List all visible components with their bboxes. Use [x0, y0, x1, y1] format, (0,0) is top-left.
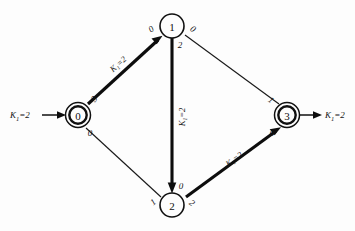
edge-0-2	[86, 128, 161, 197]
symbol-node2-above: 0	[179, 181, 184, 191]
arrowhead-input	[57, 111, 66, 119]
symbol-node1-right: 0	[188, 24, 198, 35]
arrowhead-output	[313, 111, 322, 119]
output-arrow-label: K1=2	[324, 110, 345, 121]
graph-canvas: 0 1 2 3 0 0 2 3 0 0 1 2 1 0 K₁=2	[0, 0, 355, 231]
symbol-node2-right: 2	[187, 198, 197, 209]
input-arrow	[42, 111, 66, 119]
node-1[interactable]: 1	[160, 14, 184, 38]
edge-0-1	[88, 36, 163, 104]
output-arrow	[300, 111, 322, 119]
edge-1-2	[168, 38, 177, 194]
edge-1-3	[185, 35, 279, 104]
arrowhead-1-2	[168, 183, 177, 194]
output-label-rest: =2	[334, 110, 345, 120]
state-transition-diagram: 0 1 2 3 0 0 2 3 0 0 1 2 1 0 K₁=2	[0, 0, 355, 231]
node-0[interactable]: 0	[66, 103, 91, 128]
node-2-label: 2	[169, 200, 175, 212]
input-arrow-label: K1=2	[9, 110, 30, 121]
symbol-node3-lower: 0	[270, 128, 275, 138]
symbol-node1-left: 0	[146, 23, 156, 34]
edge-weight-1-2: K₁=2	[177, 107, 187, 127]
node-3-label: 3	[284, 110, 290, 122]
symbol-node1-below: 2	[178, 40, 183, 50]
node-1-label: 1	[169, 21, 175, 33]
symbol-node0-lower: 0	[88, 128, 93, 138]
node-0-label: 0	[75, 110, 81, 122]
symbol-node2-left: 1	[148, 197, 158, 208]
node-2[interactable]: 2	[160, 193, 184, 217]
input-label-rest: =2	[19, 110, 30, 120]
node-3[interactable]: 3	[275, 103, 300, 128]
